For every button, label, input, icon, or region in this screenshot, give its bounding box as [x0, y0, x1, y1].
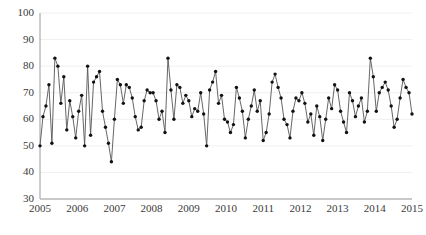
data-point-marker [235, 86, 238, 89]
data-point-marker [175, 83, 178, 86]
data-point-marker [77, 110, 80, 113]
data-point-marker [381, 86, 384, 89]
data-point-marker [187, 99, 190, 102]
data-point-marker [276, 86, 279, 89]
data-point-marker [321, 139, 324, 142]
x-tick-label: 2014 [355, 202, 395, 214]
data-point-marker [50, 142, 53, 145]
data-point-marker [62, 75, 65, 78]
data-point-marker [178, 86, 181, 89]
data-point-marker [86, 64, 89, 67]
data-point-marker [279, 96, 282, 99]
data-point-marker [288, 136, 291, 139]
data-point-marker [378, 91, 381, 94]
data-point-marker [220, 94, 223, 97]
data-point-marker [110, 160, 113, 163]
data-point-marker [154, 99, 157, 102]
x-tick-label: 2006 [57, 202, 97, 214]
data-point-marker [59, 102, 62, 105]
data-point-marker [68, 99, 71, 102]
data-point-marker [392, 126, 395, 129]
data-point-marker [282, 118, 285, 121]
x-tick-label: 2015 [392, 202, 426, 214]
data-point-marker [354, 115, 357, 118]
data-point-marker [95, 75, 98, 78]
data-point-marker [89, 134, 92, 137]
data-point-marker [119, 83, 122, 86]
data-point-marker [172, 118, 175, 121]
data-point-marker [98, 70, 101, 73]
data-point-marker [238, 96, 241, 99]
data-point-marker [166, 56, 169, 59]
data-point-marker [404, 86, 407, 89]
data-point-marker [199, 91, 202, 94]
data-point-marker [169, 88, 172, 91]
data-point-marker [398, 96, 401, 99]
data-point-marker [101, 110, 104, 113]
data-point-marker [193, 107, 196, 110]
data-point-marker [107, 142, 110, 145]
y-tick-label: 50 [8, 139, 34, 151]
data-point-marker [83, 144, 86, 147]
data-point-marker [244, 136, 247, 139]
data-point-marker [303, 102, 306, 105]
y-tick-label: 90 [8, 33, 34, 45]
data-point-marker [407, 91, 410, 94]
data-point-marker [116, 78, 119, 81]
data-point-marker [47, 83, 50, 86]
gridlines [40, 13, 412, 199]
data-point-marker [247, 118, 250, 121]
data-point-marker [294, 96, 297, 99]
data-point-marker [273, 72, 276, 75]
data-point-marker [312, 134, 315, 137]
data-point-marker [92, 80, 95, 83]
y-tick-label: 100 [8, 6, 34, 18]
data-point-marker [223, 118, 226, 121]
data-point-marker [375, 110, 378, 113]
data-point-marker [345, 131, 348, 134]
data-point-marker [369, 56, 372, 59]
y-tick-label: 40 [8, 165, 34, 177]
data-point-marker [41, 115, 44, 118]
data-point-marker [208, 88, 211, 91]
line-chart: 30405060708090100 2005200620072008200920… [0, 0, 426, 235]
data-point-marker [363, 120, 366, 123]
data-point-marker [324, 118, 327, 121]
data-point-marker [229, 131, 232, 134]
data-point-marker [148, 91, 151, 94]
data-point-marker [160, 110, 163, 113]
data-point-marker [104, 126, 107, 129]
data-point-marker [65, 128, 68, 131]
data-point-marker [395, 118, 398, 121]
data-point-marker [333, 83, 336, 86]
data-point-marker [410, 112, 413, 115]
x-tick-label: 2011 [243, 202, 283, 214]
data-point-marker [217, 102, 220, 105]
data-point-marker [336, 88, 339, 91]
x-tick-label: 2008 [132, 202, 172, 214]
data-point-marker [80, 94, 83, 97]
data-point-marker [214, 70, 217, 73]
data-point-marker [211, 80, 214, 83]
data-point-marker [327, 96, 330, 99]
y-tick-label: 60 [8, 112, 34, 124]
data-point-marker [360, 96, 363, 99]
data-point-marker [291, 110, 294, 113]
data-point-marker [351, 99, 354, 102]
x-tick-label: 2013 [318, 202, 358, 214]
data-point-marker [131, 96, 134, 99]
data-point-marker [250, 104, 253, 107]
data-point-marker [71, 115, 74, 118]
data-point-marker [306, 120, 309, 123]
x-tick-label: 2012 [280, 202, 320, 214]
data-point-marker [190, 115, 193, 118]
x-tick-label: 2005 [20, 202, 60, 214]
data-point-marker [401, 78, 404, 81]
data-point-marker [372, 75, 375, 78]
data-point-marker [74, 136, 77, 139]
data-point-marker [56, 64, 59, 67]
data-point-marker [270, 80, 273, 83]
data-point-marker [53, 56, 56, 59]
y-tick-label: 80 [8, 59, 34, 71]
data-point-marker [315, 104, 318, 107]
